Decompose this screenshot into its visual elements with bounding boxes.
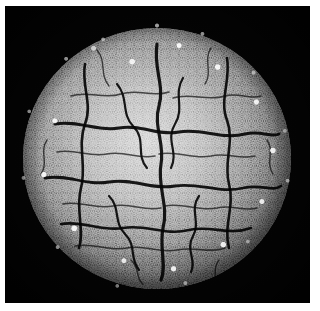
spherical-specimen bbox=[23, 28, 291, 289]
figure-root: Electron micrograph showing a roughly sp… bbox=[0, 0, 320, 311]
rim-granule-knobs bbox=[23, 28, 291, 289]
page-margin-bottom bbox=[0, 303, 320, 311]
page-margin-left bbox=[0, 0, 5, 311]
page-margin-top bbox=[0, 0, 320, 6]
micrograph-plate bbox=[5, 6, 310, 303]
page-margin-right bbox=[310, 0, 320, 311]
